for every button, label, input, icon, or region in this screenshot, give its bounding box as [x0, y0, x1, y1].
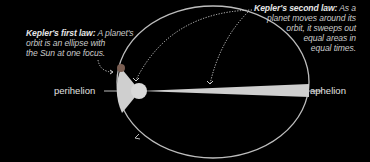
second-law-line5: equal times. — [311, 43, 356, 53]
second-law-line1: As a — [339, 3, 356, 13]
second-law-heading: Kepler's second law: — [254, 3, 337, 13]
first-law-line2: orbit is an ellipse with — [26, 38, 105, 48]
perihelion-label: perihelion — [54, 85, 95, 96]
arrowhead-icon — [133, 78, 139, 81]
second-law-line4: equal areas in — [303, 33, 356, 43]
sun — [131, 83, 147, 99]
orbit-direction-arrow-icon — [135, 134, 140, 139]
equal-area-wedge-aphelion — [140, 84, 309, 97]
first-law-caption: Kepler's first law: A planet's orbit is … — [26, 28, 166, 58]
aphelion-label: aphelion — [310, 85, 346, 96]
planet — [117, 64, 125, 72]
first-law-line3: the Sun at one focus. — [26, 48, 105, 58]
second-law-caption: Kepler's second law: As a planet moves a… — [206, 3, 356, 53]
first-law-line1: A planet's — [97, 28, 133, 38]
second-law-line3: orbit, it sweeps out — [286, 23, 356, 33]
second-law-line2: planet moves around its — [267, 13, 356, 23]
first-law-heading: Kepler's first law: — [26, 28, 95, 38]
